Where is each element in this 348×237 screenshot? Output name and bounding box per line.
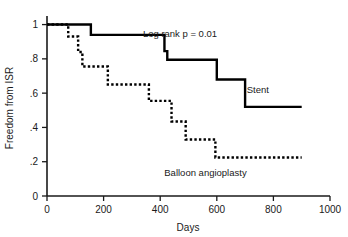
y-tick-label: .6	[30, 88, 39, 99]
x-tick-label: 400	[152, 204, 169, 215]
y-tick-label: .4	[30, 122, 39, 133]
x-axis-tick-labels: 02004006008001000	[44, 204, 341, 215]
stent-series-label: Stent	[247, 84, 270, 95]
y-axis-tick-labels: 0.2.4.6.81	[30, 19, 39, 201]
kaplan-meier-chart: 0.2.4.6.81 Freedom from ISR 020040060080…	[0, 0, 348, 237]
x-axis-title: Days	[177, 222, 200, 233]
log-rank-annotation: Log rank p = 0.01	[143, 28, 217, 39]
x-axis: 02004006008001000 Days	[44, 196, 341, 233]
x-tick-label: 200	[95, 204, 112, 215]
y-tick-label: .8	[30, 53, 39, 64]
x-tick-label: 0	[44, 204, 50, 215]
y-tick-label: 1	[32, 19, 38, 30]
x-tick-label: 1000	[319, 204, 342, 215]
y-axis-title: Freedom from ISR	[4, 67, 15, 149]
y-tick-label: 0	[32, 191, 38, 202]
x-tick-label: 600	[208, 204, 225, 215]
y-tick-label: .2	[30, 156, 39, 167]
annotation-layer: Log rank p = 0.01StentBalloon angioplast…	[143, 28, 269, 179]
balloon-series-label: Balloon angioplasty	[164, 167, 247, 178]
plot-canvas: 0.2.4.6.81 Freedom from ISR 020040060080…	[0, 0, 348, 237]
x-tick-label: 800	[265, 204, 282, 215]
y-axis: 0.2.4.6.81 Freedom from ISR	[4, 16, 47, 202]
